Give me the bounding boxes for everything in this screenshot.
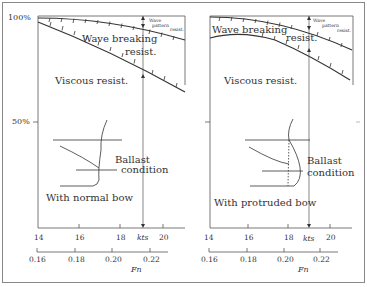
right-viscous-label: Viscous resist.	[223, 75, 297, 86]
left-panel: 100% 50%	[8, 13, 185, 274]
fn-tick-020: 0.20	[105, 255, 122, 264]
wave-breaking-label-1: Wave breaking	[82, 33, 158, 44]
ballast-label-2: condition	[121, 164, 169, 175]
right-kts-tick-14: 14	[204, 233, 214, 242]
wave-breaking-label-2: resist.	[125, 46, 156, 57]
right-kts-tick-16: 16	[244, 233, 254, 242]
right-kts-tick-20: 20	[326, 233, 336, 242]
normal-bow-sketch	[53, 120, 122, 186]
right-wave-breaking-label-2: resist.	[286, 32, 317, 43]
y-tick-100: 100%	[8, 13, 31, 22]
kts-tick-20: 20	[159, 233, 169, 242]
right-kts-unit-label: kts	[303, 234, 315, 243]
right-wave-pattern-label-3: resist.	[337, 28, 352, 33]
right-ballast-label-1: Ballast	[307, 155, 342, 166]
fn-axis-label: Fn	[130, 265, 142, 274]
wave-pattern-label-3: resist.	[170, 27, 185, 32]
kts-tick-18: 18	[116, 233, 126, 242]
right-panel: Wave pattern resist. Wave breaking resis…	[201, 16, 360, 274]
y-tick-50: 50%	[12, 117, 30, 126]
resistance-composition-diagram: 100% 50%	[0, 0, 367, 287]
right-kts-tick-18: 18	[284, 233, 294, 242]
wave-pattern-label-2: pattern	[152, 23, 169, 28]
right-fn-tick-020: 0.20	[277, 255, 294, 264]
right-bow-type-label: With protruded bow	[214, 197, 317, 208]
kts-tick-14: 14	[34, 233, 44, 242]
fn-tick-022: 0.22	[143, 255, 160, 264]
right-fn-tick-016: 0.16	[201, 255, 218, 264]
fn-tick-016: 0.16	[29, 255, 46, 264]
bow-type-label: With normal bow	[46, 192, 133, 203]
kts-unit-label: kts	[137, 233, 149, 242]
right-fn-axis-label: Fn	[297, 265, 309, 274]
right-fn-tick-022: 0.22	[313, 255, 330, 264]
protruded-bow-sketch	[245, 119, 310, 186]
right-fn-tick-018: 0.18	[240, 255, 257, 264]
viscous-label: Viscous resist.	[54, 75, 128, 86]
right-wave-breaking-label-1: Wave breaking	[212, 24, 288, 35]
kts-tick-16: 16	[75, 233, 85, 242]
right-ballast-label-2: condition	[307, 167, 355, 178]
fn-tick-018: 0.18	[68, 255, 85, 264]
